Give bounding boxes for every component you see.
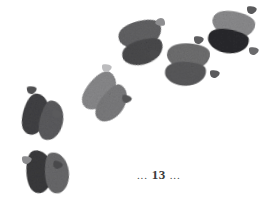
dewclaw-mark [155,18,165,26]
dewclaw-shape [210,70,220,78]
dewclaw-shape [27,86,37,95]
dewclaw-mark [102,64,112,72]
hoof-lobe-right [165,61,207,86]
dewclaw-shape [102,64,112,72]
dewclaw-mark [150,50,160,58]
dewclaw-mark [194,36,204,44]
dewclaw-mark [27,86,37,95]
folio-trailing-dots: ... [170,169,181,181]
folio-number: 13 [152,167,166,182]
dewclaw-mark [249,47,259,55]
hoof-print [164,43,211,87]
folio-leading-dots: ... [137,169,148,181]
dewclaw-mark [210,70,220,78]
dewclaw-shape [247,6,257,14]
dewclaw-shape [150,50,160,58]
hoof-print [19,92,67,143]
dewclaw-shape [249,47,259,55]
page-folio: ... 13 ... [15,152,272,198]
dewclaw-shape [194,36,204,44]
hoof-print [207,9,257,56]
dewclaw-mark [247,6,257,14]
dewclaw-shape [155,18,165,26]
book-page: ... 13 ... [0,0,272,210]
